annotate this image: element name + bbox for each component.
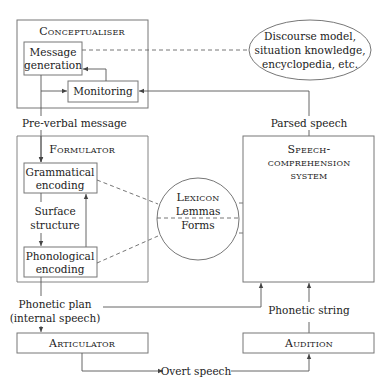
phonetic-string-label: Phonetic string (268, 304, 350, 316)
phonological-encoding-label-1: Phonological (26, 250, 95, 262)
conceptualiser-title: Conceptualiser (39, 25, 125, 38)
monitoring-label: Monitoring (73, 85, 133, 97)
overt-speech-label: Overt speech (161, 365, 232, 377)
grammatical-encoding-label-1: Grammatical (26, 166, 96, 178)
speech-comprehension-title-1: Speech- (288, 143, 331, 156)
phonetic-plan-label-1: Phonetic plan (18, 298, 91, 310)
knowledge-label-3: encyclopedia, etc. (262, 58, 358, 70)
knowledge-label-1: Discourse model, (264, 30, 356, 42)
parsed-speech-label: Parsed speech (271, 117, 348, 129)
speech-production-diagram: Conceptualiser Message generation Monito… (0, 0, 390, 387)
phonological-encoding-label-2: encoding (36, 263, 85, 275)
articulator-label: Articulator (48, 337, 116, 350)
lexicon-title: Lexicon (176, 191, 219, 204)
message-generation-label-1: Message (30, 46, 77, 58)
knowledge-label-2: situation knowledge, (255, 44, 366, 56)
surface-structure-label-2: structure (30, 219, 80, 231)
grammatical-encoding-label-2: encoding (36, 179, 85, 191)
formulator-title: Formulator (49, 143, 115, 156)
preverbal-message-label: Pre-verbal message (22, 117, 127, 129)
grammatical-lexicon-dashed-link (97, 180, 158, 204)
lexicon-forms-label: Forms (181, 219, 214, 231)
phonetic-plan-label-2: (internal speech) (10, 312, 101, 324)
phonological-lexicon-dashed-link (97, 236, 158, 263)
audition-label: Audition (284, 337, 333, 350)
lexicon-lemmas-label: Lemmas (176, 205, 221, 217)
speech-comprehension-title-2: comprehension (268, 156, 351, 169)
overt-speech-arrow-left (82, 353, 163, 371)
overt-speech-arrow-right (231, 354, 309, 371)
internal-speech-arrow (103, 283, 261, 307)
surface-structure-label-1: Surface (34, 205, 75, 217)
speech-comprehension-title-3: system (291, 169, 328, 182)
message-generation-label-2: generation (24, 59, 82, 71)
